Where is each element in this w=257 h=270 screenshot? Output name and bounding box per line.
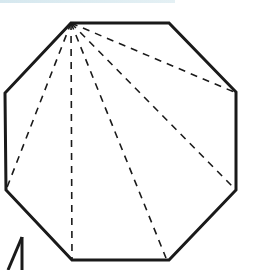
octagon-outline xyxy=(5,23,236,260)
octagon-diagram xyxy=(0,0,257,270)
partial-shape-edge-1 xyxy=(8,237,22,270)
diagonal-line-1 xyxy=(6,23,71,190)
partial-triangle-shape xyxy=(8,237,22,270)
diagonal-line-3 xyxy=(71,23,166,258)
diagonal-line-2 xyxy=(71,23,72,260)
diagonal-line-5 xyxy=(71,23,234,92)
diagonal-line-4 xyxy=(71,23,234,188)
